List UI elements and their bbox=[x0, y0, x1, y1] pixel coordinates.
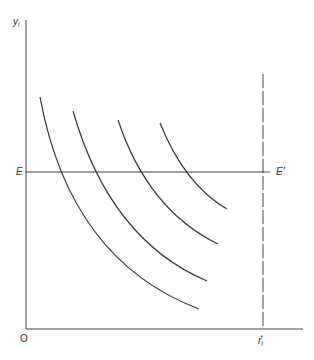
indifference-curve-1 bbox=[40, 97, 199, 309]
indifference-curve-3 bbox=[118, 120, 218, 244]
r-label-superscript: * bbox=[260, 334, 263, 341]
y-axis-label: yi bbox=[13, 17, 20, 28]
r-label-subscript: i bbox=[261, 340, 263, 347]
diagram-canvas bbox=[0, 0, 314, 360]
e-right-label: E' bbox=[276, 167, 285, 177]
origin-label: O bbox=[20, 334, 28, 344]
e-right-label-text: E' bbox=[276, 166, 285, 177]
y-axis-label-subscript: i bbox=[18, 21, 20, 28]
indifference-curve-4 bbox=[160, 123, 227, 209]
indifference-curve-2 bbox=[73, 111, 207, 281]
e-left-label: E bbox=[16, 167, 23, 177]
origin-label-text: O bbox=[20, 333, 28, 344]
e-left-label-text: E bbox=[16, 166, 23, 177]
x-axis-r-star-label: ri* bbox=[258, 334, 263, 347]
